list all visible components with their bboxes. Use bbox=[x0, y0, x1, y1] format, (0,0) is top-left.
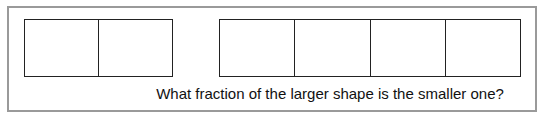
shape-cell bbox=[446, 20, 520, 76]
shape-cell bbox=[371, 20, 446, 76]
smaller-shape bbox=[24, 19, 173, 77]
larger-shape bbox=[219, 19, 521, 77]
shape-cell bbox=[295, 20, 370, 76]
question-text: What fraction of the larger shape is the… bbox=[120, 85, 540, 102]
shape-cell bbox=[99, 20, 172, 76]
shape-cell bbox=[220, 20, 295, 76]
shape-cell bbox=[25, 20, 99, 76]
